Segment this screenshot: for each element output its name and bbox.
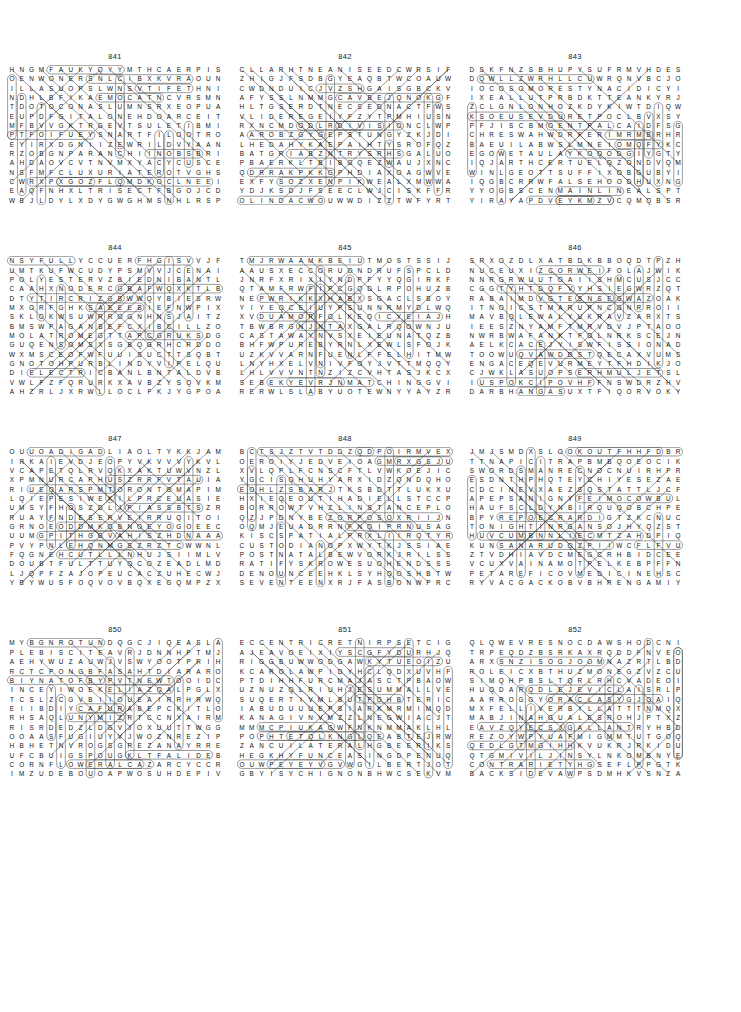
grid-letter: I bbox=[164, 275, 174, 284]
grid-letter: G bbox=[115, 751, 125, 760]
grid-letter: H bbox=[654, 723, 664, 732]
grid-letter: R bbox=[614, 65, 624, 74]
grid-letter: C bbox=[237, 331, 247, 340]
grid-letter: X bbox=[237, 312, 247, 321]
grid-letter: A bbox=[355, 704, 365, 713]
grid-letter: P bbox=[7, 541, 17, 550]
grid-letter: N bbox=[634, 569, 644, 578]
grid-letter: Y bbox=[286, 760, 296, 769]
grid-letter: J bbox=[487, 447, 497, 456]
grid-letter: W bbox=[154, 284, 164, 293]
grid-letter: O bbox=[66, 638, 76, 647]
grid-letter: W bbox=[496, 350, 506, 359]
grid-letter: L bbox=[565, 177, 575, 186]
grid-letter: Y bbox=[565, 494, 575, 503]
grid-letter: H bbox=[604, 275, 614, 284]
grid-letter: U bbox=[46, 256, 56, 265]
grid-letter: Z bbox=[86, 503, 96, 512]
grid-letter: A bbox=[213, 102, 223, 111]
grid-letter: N bbox=[526, 387, 536, 396]
grid-letter: Z bbox=[506, 256, 516, 265]
grid-letter: T bbox=[174, 723, 184, 732]
grid-letter: I bbox=[365, 760, 375, 769]
grid-letter: Q bbox=[644, 196, 654, 205]
grid-letter: B bbox=[663, 657, 673, 666]
grid-letter: U bbox=[526, 275, 536, 284]
grid-letter: T bbox=[374, 503, 384, 512]
grid-letter: N bbox=[154, 149, 164, 158]
grid-letter: F bbox=[36, 256, 46, 265]
grid-letter: B bbox=[144, 368, 154, 377]
grid-letter: I bbox=[27, 140, 37, 149]
grid-letter: M bbox=[555, 559, 565, 568]
grid-letter: N bbox=[306, 350, 316, 359]
grid-letter: O bbox=[247, 503, 257, 512]
grid-letter: H bbox=[546, 102, 556, 111]
grid-letter: Z bbox=[654, 475, 664, 484]
grid-letter: Q bbox=[66, 466, 76, 475]
grid-letter: O bbox=[365, 513, 375, 522]
grid-letter: E bbox=[467, 149, 477, 158]
grid-letter: N bbox=[316, 466, 326, 475]
grid-letter: Y bbox=[575, 284, 585, 293]
grid-letter: F bbox=[424, 140, 434, 149]
grid-letter: C bbox=[443, 695, 453, 704]
grid-letter: C bbox=[125, 322, 135, 331]
grid-letter: Z bbox=[663, 769, 673, 778]
grid-letter: I bbox=[526, 704, 536, 713]
grid-letter: N bbox=[125, 359, 135, 368]
grid-letter: E bbox=[7, 704, 17, 713]
grid-letter: R bbox=[276, 322, 286, 331]
grid-letter: E bbox=[257, 648, 267, 657]
grid-letter: I bbox=[467, 378, 477, 387]
grid-letter: B bbox=[496, 177, 506, 186]
grid-letter: L bbox=[95, 387, 105, 396]
grid-letter: A bbox=[27, 284, 37, 293]
grid-letter: N bbox=[345, 340, 355, 349]
grid-letter: M bbox=[634, 130, 644, 139]
grid-letter: Y bbox=[345, 667, 355, 676]
grid-letter: U bbox=[506, 112, 516, 121]
grid-letter: Q bbox=[237, 168, 247, 177]
grid-letter: C bbox=[516, 667, 526, 676]
grid-letter: A bbox=[184, 312, 194, 321]
grid-letter: X bbox=[673, 704, 683, 713]
grid-letter: I bbox=[115, 447, 125, 456]
grid-letter: N bbox=[604, 751, 614, 760]
grid-letter: P bbox=[36, 541, 46, 550]
grid-letter: A bbox=[384, 732, 394, 741]
grid-letter: R bbox=[164, 331, 174, 340]
grid-letter: U bbox=[663, 494, 673, 503]
grid-letter: D bbox=[634, 378, 644, 387]
grid-letter: G bbox=[414, 378, 424, 387]
grid-letter: H bbox=[614, 550, 624, 559]
grid-letter: R bbox=[7, 667, 17, 676]
grid-letter: E bbox=[86, 331, 96, 340]
grid-letter: T bbox=[604, 447, 614, 456]
grid-letter: S bbox=[345, 130, 355, 139]
grid-letter: O bbox=[286, 648, 296, 657]
grid-letter: G bbox=[546, 494, 556, 503]
grid-letter: C bbox=[424, 494, 434, 503]
grid-letter: D bbox=[164, 140, 174, 149]
grid-letter: E bbox=[496, 130, 506, 139]
grid-letter: U bbox=[404, 158, 414, 167]
grid-letter: A bbox=[276, 312, 286, 321]
grid-letter: A bbox=[174, 368, 184, 377]
grid-letter: D bbox=[467, 65, 477, 74]
grid-letter: V bbox=[276, 368, 286, 377]
grid-letter: U bbox=[286, 340, 296, 349]
grid-letter: N bbox=[404, 93, 414, 102]
grid-letter: O bbox=[7, 447, 17, 456]
grid-letter: C bbox=[555, 550, 565, 559]
grid-letter: B bbox=[115, 294, 125, 303]
grid-letter: I bbox=[604, 186, 614, 195]
grid-letter: N bbox=[404, 559, 414, 568]
grid-letter: S bbox=[526, 65, 536, 74]
grid-letter: K bbox=[644, 741, 654, 750]
grid-letter: T bbox=[174, 657, 184, 666]
grid-letter: Z bbox=[673, 713, 683, 722]
grid-letter: I bbox=[276, 457, 286, 466]
grid-letter: E bbox=[496, 266, 506, 275]
grid-letter: E bbox=[135, 695, 145, 704]
